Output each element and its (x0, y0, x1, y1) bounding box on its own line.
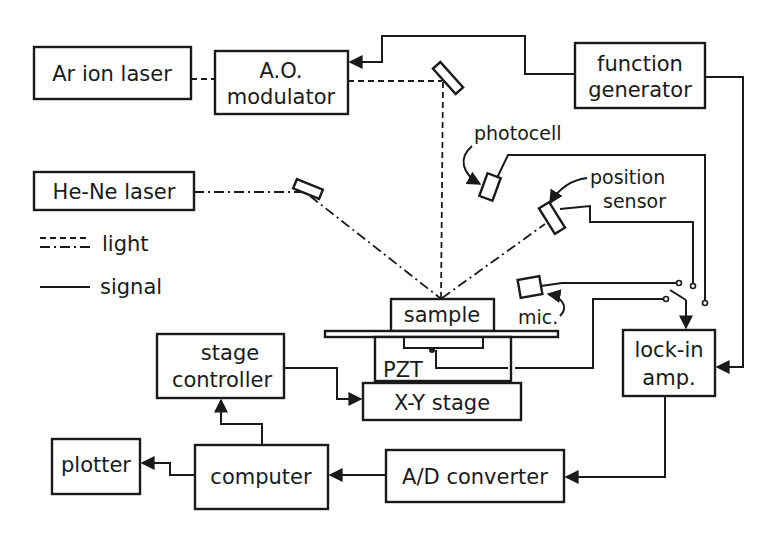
computer-label: computer (210, 465, 312, 489)
lockin-amp-label-1: lock-in (634, 338, 703, 362)
position-sensor: position sensor (539, 166, 666, 234)
mirror-icon-lower (293, 179, 323, 199)
light-path-mirror-to-sample-hene (310, 196, 440, 298)
plotter-label: plotter (61, 453, 131, 477)
terminal-photocell[interactable] (703, 301, 708, 306)
ao-modulator-label-1: A.O. (259, 59, 302, 83)
mic-label: mic. (518, 306, 558, 328)
wire-stage-controller-to-xy (284, 368, 361, 399)
xy-stage-block: X-Y stage (363, 383, 521, 420)
ao-modulator-label-2: modulator (227, 85, 336, 109)
hene-laser-label: He-Ne laser (53, 180, 176, 204)
sample-label: sample (404, 303, 480, 327)
function-generator-label-1: function (597, 52, 683, 76)
wire-position-sensor (560, 206, 693, 285)
legend: light signal (40, 232, 162, 299)
function-generator-label-2: generator (588, 78, 692, 102)
position-sensor-label-2: sensor (603, 190, 666, 212)
stage-controller-label-2: controller (172, 368, 273, 392)
photocell-pointer (464, 146, 480, 184)
ao-modulator-block: A.O. modulator (215, 51, 348, 114)
pzt-label: PZT (383, 358, 423, 382)
position-sensor-label-1: position (590, 166, 665, 188)
terminal-pzt[interactable] (664, 297, 669, 302)
stage-controller-block: stage controller (157, 334, 284, 398)
block-diagram: Ar ion laser A.O. modulator function gen… (0, 0, 776, 542)
computer-block: computer (195, 445, 328, 509)
wire-computer-to-stage-controller (221, 400, 262, 445)
wire-computer-to-plotter (142, 463, 195, 475)
position-sensor-icon (539, 202, 565, 234)
pzt-block: PZT (375, 337, 511, 382)
wire-fg-to-lockin (705, 77, 743, 367)
lockin-amp-label-2: amp. (642, 366, 695, 390)
photocell-sensor: photocell (464, 122, 562, 201)
xy-stage-label: X-Y stage (394, 391, 490, 415)
photocell-label: photocell (474, 122, 562, 144)
wire-mic (541, 283, 678, 286)
ad-converter-block: A/D converter (386, 450, 564, 502)
plotter-block: plotter (52, 439, 140, 494)
selector-switch[interactable] (670, 290, 686, 300)
wire-fg-to-ao (350, 36, 575, 74)
mirror-icon-upper (433, 62, 463, 94)
ar-ion-laser-label: Ar ion laser (52, 62, 172, 86)
pzt-contact-dot (429, 347, 435, 353)
wire-lockin-to-ad (566, 396, 665, 477)
diagram-canvas: Ar ion laser A.O. modulator function gen… (0, 0, 776, 542)
light-path-mirror-to-sample (441, 82, 443, 298)
mic-icon (518, 276, 543, 298)
terminal-position-sensor[interactable] (691, 284, 696, 289)
lockin-amp-block: lock-in amp. (623, 330, 715, 396)
function-generator-block: function generator (575, 43, 705, 108)
sample-block: sample (391, 299, 494, 331)
stage-controller-label-1: stage (201, 341, 259, 365)
legend-signal-label: signal (100, 275, 162, 299)
legend-light-label: light (102, 232, 149, 256)
position-sensor-pointer (550, 178, 587, 203)
ad-converter-label: A/D converter (402, 465, 548, 489)
terminal-mic[interactable] (677, 281, 682, 286)
ar-ion-laser-block: Ar ion laser (34, 47, 191, 99)
hene-laser-block: He-Ne laser (34, 172, 194, 210)
